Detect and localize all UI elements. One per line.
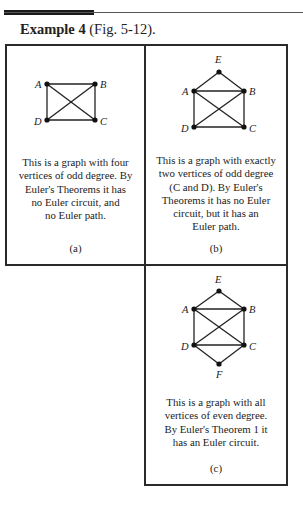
panel-a: A B C D This is a graph with four vertic… <box>5 44 146 266</box>
panel-a-description: This is a graph with four vertices of od… <box>7 156 144 222</box>
text-line: Euler's Theorems it has <box>7 183 144 196</box>
text-line: By Euler's Theorem 1 it <box>146 423 286 436</box>
vertex-label-c: C <box>249 123 257 134</box>
example-heading: Example 4 (Fig. 5-12). <box>20 21 156 38</box>
panel-a-caption: (a) <box>7 242 144 254</box>
text-line: no Euler path. <box>7 209 144 222</box>
vertex-label-c: C <box>100 116 108 126</box>
vertex-label-a: A <box>34 79 42 90</box>
text-line: This is a graph with exactly <box>146 154 286 167</box>
graph-c: A B C D E F <box>146 266 286 381</box>
panel-b-caption: (b) <box>146 242 286 254</box>
graph-b: A B C D E <box>146 46 286 136</box>
text-line: This is a graph with all <box>146 396 286 409</box>
text-line: vertices of odd degree. By <box>7 169 144 182</box>
vertex-label-d: D <box>33 116 42 126</box>
vertex-label-b: B <box>249 304 256 315</box>
panel-b-description: This is a graph with exactly two vertice… <box>146 154 286 234</box>
panel-c: A B C D E F This is a graph with all ver… <box>144 264 288 486</box>
vertex-label-d: D <box>180 123 189 134</box>
vertex-label-c: C <box>249 341 257 352</box>
text-line: vertices of even degree. <box>146 409 286 422</box>
panel-c-caption: (c) <box>146 462 286 474</box>
vertex-label-f: F <box>215 369 223 380</box>
vertex-label-a: A <box>181 86 189 97</box>
vertex-label-b: B <box>249 86 256 97</box>
text-line: This is a graph with four <box>7 156 144 169</box>
panel-c-description: This is a graph with all vertices of eve… <box>146 396 286 449</box>
figure-reference: (Fig. 5-12). <box>86 21 156 37</box>
vertex-label-e: E <box>214 274 222 285</box>
text-line: (C and D). By Euler's <box>146 181 286 194</box>
panel-b: A B C D E This is a graph with exactly t… <box>144 44 288 266</box>
text-line: two vertices of odd degree <box>146 167 286 180</box>
text-line: no Euler circuit, and <box>7 196 144 209</box>
text-line: circuit, but it has an <box>146 207 286 220</box>
header-rule-thin <box>4 12 303 13</box>
text-line: Euler path. <box>146 220 286 233</box>
graph-a: A B C D <box>7 46 144 126</box>
text-line: Theorems it has no Euler <box>146 194 286 207</box>
vertex-label-e: E <box>214 54 222 65</box>
text-line: has an Euler circuit. <box>146 436 286 449</box>
vertex-label-b: B <box>100 79 107 90</box>
vertex-label-a: A <box>181 304 189 315</box>
vertex-label-d: D <box>180 341 189 352</box>
example-number: Example 4 <box>20 21 86 37</box>
